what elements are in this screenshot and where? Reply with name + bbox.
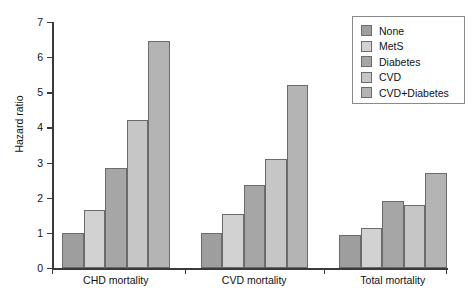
x-axis-group-label: CVD mortality — [201, 274, 309, 286]
bar-chart: Hazard ratio 01234567 CHD mortalityCVD m… — [0, 0, 473, 297]
legend-swatch-icon — [361, 87, 372, 98]
legend-rows: NoneMetSDiabetesCVDCVD+Diabetes — [361, 23, 464, 101]
bar — [404, 205, 426, 268]
x-axis-line — [52, 268, 448, 270]
x-tick-mark — [324, 268, 325, 274]
bar — [105, 168, 127, 268]
y-axis-line — [52, 22, 54, 269]
legend-label: None — [379, 26, 404, 37]
y-tick-mark — [47, 57, 52, 58]
legend-swatch-icon — [361, 25, 372, 36]
y-tick-label: 4 — [37, 121, 43, 133]
legend-swatch-icon — [361, 72, 372, 83]
legend-label: MetS — [379, 41, 404, 52]
legend-label: CVD — [379, 72, 401, 83]
y-tick-label: 3 — [37, 157, 43, 169]
legend-item: None — [361, 23, 464, 39]
legend-swatch-icon — [361, 56, 372, 67]
legend-item: Diabetes — [361, 54, 464, 70]
legend-item: CVD+Diabetes — [361, 85, 464, 101]
y-tick-mark — [47, 198, 52, 199]
bar-group: CVD mortality — [201, 22, 309, 268]
legend-label: Diabetes — [379, 57, 420, 68]
x-axis-group-label: CHD mortality — [62, 274, 170, 286]
legend-item: MetS — [361, 39, 464, 55]
x-tick-mark — [446, 268, 447, 274]
x-tick-mark — [185, 268, 186, 274]
y-tick-label: 2 — [37, 192, 43, 204]
y-tick-mark — [47, 233, 52, 234]
y-tick-mark — [47, 163, 52, 164]
legend-label: CVD+Diabetes — [379, 88, 449, 99]
bar — [127, 120, 149, 268]
y-tick-mark — [47, 22, 52, 23]
bar — [265, 159, 287, 268]
legend-swatch-icon — [361, 41, 372, 52]
bar — [244, 185, 266, 268]
legend-item: CVD — [361, 70, 464, 86]
bar-group: CHD mortality — [62, 22, 170, 268]
bar — [425, 173, 447, 268]
y-tick-mark — [47, 92, 52, 93]
bar — [222, 214, 244, 268]
y-tick-label: 7 — [37, 16, 43, 28]
y-tick-label: 6 — [37, 51, 43, 63]
y-tick-label: 0 — [37, 262, 43, 274]
y-axis-label: Hazard ratio — [13, 69, 25, 179]
x-axis-group-label: Total mortality — [339, 274, 447, 286]
y-tick-mark — [47, 127, 52, 128]
bar — [62, 233, 84, 268]
bar — [382, 201, 404, 268]
y-tick-label: 1 — [37, 227, 43, 239]
bar — [287, 85, 309, 268]
bar — [361, 228, 383, 268]
bar — [148, 41, 170, 268]
bar — [201, 233, 223, 268]
bar — [84, 210, 106, 268]
y-tick-label: 5 — [37, 86, 43, 98]
chart-legend: NoneMetSDiabetesCVDCVD+Diabetes — [352, 16, 465, 104]
x-tick-mark — [52, 268, 53, 274]
bar — [339, 235, 361, 268]
